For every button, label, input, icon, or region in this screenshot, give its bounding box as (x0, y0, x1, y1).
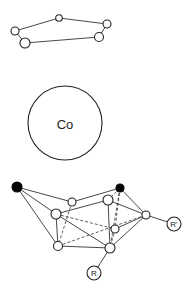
ring-bond (59, 18, 107, 24)
substituent-label: R' (170, 220, 178, 229)
ring-atom (11, 27, 19, 35)
boron-atom (142, 211, 150, 219)
cobalt-label: Co (57, 117, 74, 132)
cage-bond (17, 187, 72, 202)
carbon-atom (12, 182, 22, 192)
carborane-cage: RR' (12, 182, 181, 280)
sandwich-complex-diagram: Co RR' (0, 0, 194, 294)
boron-atom (54, 242, 63, 251)
ring-atom (20, 38, 30, 48)
cage-bond (56, 200, 108, 214)
hidden-bond (56, 214, 115, 229)
boron-atom (51, 209, 61, 219)
ring-bond (25, 37, 99, 43)
carbon-atom (116, 184, 124, 192)
cage-bond (58, 246, 110, 248)
cage-bond (17, 187, 56, 214)
ring-bond (15, 18, 59, 31)
boron-atom (68, 198, 76, 206)
cyclopentadienyl-ring (11, 15, 111, 48)
boron-atom (103, 195, 113, 205)
cage-bond (120, 188, 146, 215)
cage-bond (115, 215, 146, 229)
substituent-label: R (91, 269, 97, 278)
ring-atom (95, 33, 104, 42)
cage-bond (108, 200, 146, 215)
cage-bond (108, 200, 110, 248)
boron-atom (111, 225, 119, 233)
ring-atom (103, 20, 111, 28)
hidden-bond (58, 202, 72, 246)
cage-bond (56, 214, 110, 248)
cobalt-atom: Co (28, 86, 102, 160)
boron-atom (105, 243, 115, 253)
hidden-bond (58, 215, 146, 246)
ring-atom (56, 15, 63, 22)
